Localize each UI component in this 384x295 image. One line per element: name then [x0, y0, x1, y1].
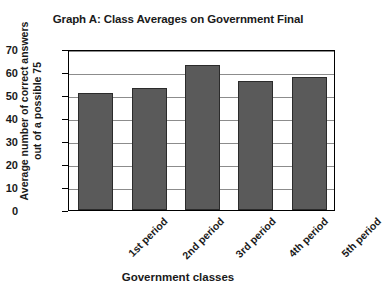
x-tick-label: 3rd period — [233, 215, 278, 260]
plot-area — [68, 50, 335, 211]
chart-title: Graph A: Class Averages on Government Fi… — [0, 13, 356, 25]
bar — [292, 77, 327, 210]
y-tick-label-30: 30 — [0, 137, 18, 147]
y-tick-label-70: 70 — [0, 45, 18, 55]
x-tick-label: 5th period — [339, 215, 383, 259]
bar — [78, 93, 113, 210]
bar — [238, 81, 273, 210]
y-axis-title-line-1: Average number of correct answers — [18, 22, 31, 201]
y-tick-label-10: 10 — [0, 183, 18, 193]
bar — [185, 65, 220, 210]
x-tick-label: 2nd period — [180, 215, 226, 261]
x-tick-label: 4th period — [286, 215, 330, 259]
y-tick-label-60: 60 — [0, 68, 18, 78]
bar-series — [69, 51, 334, 210]
x-tick-label: 1st period — [125, 215, 169, 259]
y-tick-mark-0 — [62, 211, 68, 212]
y-tick-label-40: 40 — [0, 114, 18, 124]
y-axis-title: Average number of correct answers out of… — [16, 16, 46, 206]
y-axis-title-line-2: out of a possible 75 — [31, 62, 44, 160]
y-tick-label-50: 50 — [0, 91, 18, 101]
x-axis-title: Government classes — [0, 271, 356, 283]
y-tick-label-0: 0 — [0, 206, 18, 216]
bar — [132, 88, 167, 210]
y-tick-label-20: 20 — [0, 160, 18, 170]
